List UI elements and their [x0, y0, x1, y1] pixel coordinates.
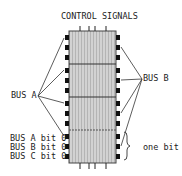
bit-slice-diagram: CONTROL SIGNALS BUS A BUS B BUS A bit 0 … — [0, 0, 182, 176]
bus-a-label: BUS A — [11, 91, 37, 100]
bus-a-connectors — [38, 38, 64, 136]
bus-c-bit-label: BUS C bit 0 — [10, 152, 66, 161]
right-pins — [116, 35, 120, 159]
bus-b-label: BUS B — [143, 74, 169, 83]
control-signal-pins-bottom — [80, 163, 106, 169]
one-bit-brace-icon — [124, 132, 130, 160]
chip-body — [69, 31, 116, 163]
control-signal-pins-top — [80, 26, 106, 31]
bus-b-connectors — [121, 47, 142, 146]
one-bit-label: one bit — [143, 143, 179, 152]
control-signals-title: CONTROL SIGNALS — [61, 12, 138, 21]
